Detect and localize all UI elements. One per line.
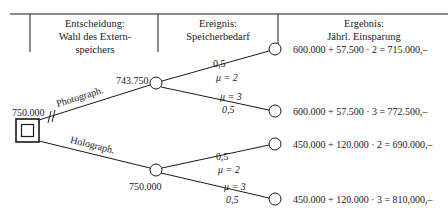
- end-node-holo-mu3: [269, 193, 281, 205]
- header-event: Ereignis: Speicherbedarf: [158, 17, 278, 43]
- chance-node-value-holograph: 750.000: [129, 181, 162, 192]
- prob-holo-mu3: 0,5: [226, 194, 239, 205]
- decision-node-value: 750.000: [12, 107, 45, 118]
- mu-holo-mu2: μ = 2: [218, 164, 240, 175]
- decision-node-inner-square: [22, 125, 34, 137]
- result-photo-mu3: 600.000 + 57.500 · 3 = 772.500,–: [293, 106, 428, 117]
- result-holo-mu3: 450.000 + 120.000 · 3 = 810,000,–: [293, 194, 433, 205]
- chance-node-holograph: [150, 164, 162, 176]
- prob-photo-mu3: 0,5: [222, 104, 235, 115]
- header-event-line-2: Speicherbedarf: [158, 30, 278, 43]
- mu-photo-mu3: μ = 3: [220, 91, 242, 102]
- edge-holo-mu3: [161, 173, 269, 198]
- end-node-holo-mu2: [269, 138, 281, 150]
- header-event-line-1: Ereignis:: [158, 17, 278, 30]
- chance-node-value-photograph: 743.750: [116, 75, 149, 86]
- chance-node-photograph: [150, 77, 162, 89]
- header-result-line-1: Ergebnis:: [280, 17, 448, 30]
- end-node-photo-mu3: [269, 105, 281, 117]
- mu-photo-mu2: μ = 2: [216, 72, 238, 83]
- result-holo-mu2: 450.000 + 120.000 · 2 = 690.000,–: [293, 139, 433, 150]
- edge-photo-mu3: [161, 87, 269, 110]
- header-decision-line-2: Wahl des Extern-: [32, 30, 158, 43]
- prob-holo-mu2: 0,5: [216, 151, 229, 162]
- header-decision-line-3: speichers: [32, 43, 158, 56]
- decision-node-square: [16, 119, 39, 142]
- header-decision: Entscheidung: Wahl des Extern- speichers: [32, 17, 158, 56]
- end-node-photo-mu2: [269, 43, 281, 55]
- header-result: Ergebnis: Jährl. Einsparung: [280, 17, 448, 43]
- prob-photo-mu2: 0,5: [213, 58, 226, 69]
- header-decision-line-1: Entscheidung:: [32, 17, 158, 30]
- result-photo-mu2: 600.000 + 57.500 · 2 = 715.000,–: [293, 44, 428, 55]
- header-result-line-2: Jährl. Einsparung: [280, 30, 448, 43]
- mu-holo-mu3: μ = 3: [224, 181, 246, 192]
